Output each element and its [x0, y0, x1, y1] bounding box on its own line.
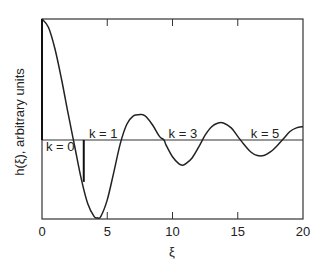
- x-tick-label: 10: [165, 224, 179, 239]
- y-axis-title: h(ξ), arbitrary units: [12, 68, 27, 176]
- x-tick-label: 20: [296, 224, 310, 239]
- plot-frame: [42, 19, 303, 219]
- x-tick-label: 0: [38, 224, 45, 239]
- x-tick-label: 15: [231, 224, 245, 239]
- x-ticks: [107, 19, 238, 219]
- k-label: k = 3: [169, 126, 198, 141]
- x-tick-label: 5: [104, 224, 111, 239]
- chart: 05101520 k = 0k = 1k = 3k = 5 ξ h(ξ), ar…: [0, 0, 323, 270]
- k-label: k = 5: [251, 126, 280, 141]
- k-label: k = 1: [89, 126, 118, 141]
- x-axis-title: ξ: [169, 244, 175, 259]
- x-tick-labels: 05101520: [38, 224, 310, 239]
- k-label: k = 0: [46, 139, 75, 154]
- h-xi-curve: [42, 19, 303, 218]
